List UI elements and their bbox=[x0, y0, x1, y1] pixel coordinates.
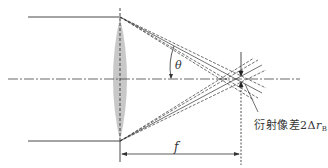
caption-leader-line bbox=[245, 84, 258, 112]
focal-arrow-right bbox=[234, 152, 240, 156]
caption-subscript: B bbox=[322, 125, 328, 133]
theta-label: θ bbox=[175, 59, 182, 72]
lens-diffraction-diagram bbox=[0, 0, 328, 168]
focal-length-label: f bbox=[174, 140, 178, 154]
focal-arrow-left bbox=[121, 152, 127, 156]
converging-rays-bottom bbox=[120, 58, 266, 141]
theta-arrowhead bbox=[169, 74, 173, 79]
diffraction-aberration-caption: 衍射像差2ΔrB bbox=[254, 116, 327, 133]
theta-angle-arc bbox=[170, 46, 174, 78]
caption-text: 衍射像差2Δ bbox=[254, 119, 316, 132]
converging-rays-top bbox=[120, 17, 266, 100]
